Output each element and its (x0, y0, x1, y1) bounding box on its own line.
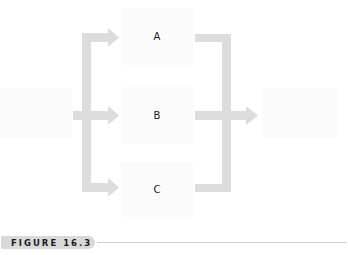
caption-rule (97, 242, 347, 243)
line-from-a (195, 34, 231, 42)
figure-caption-label: FIGURE 16.3 (11, 238, 92, 248)
node-c-label: C (154, 184, 161, 195)
node-b: B (121, 87, 193, 144)
line-from-c (195, 184, 231, 192)
node-b-label: B (154, 110, 161, 121)
figure-caption: FIGURE 16.3 (1, 236, 95, 249)
node-input (0, 88, 72, 138)
node-a-label: A (154, 31, 161, 42)
node-c: C (121, 162, 193, 217)
arrow-to-b-icon (73, 106, 119, 125)
diagram-canvas: A B C FIGURE 16.3 (0, 0, 348, 255)
node-a: A (121, 8, 193, 65)
node-output (262, 88, 338, 138)
